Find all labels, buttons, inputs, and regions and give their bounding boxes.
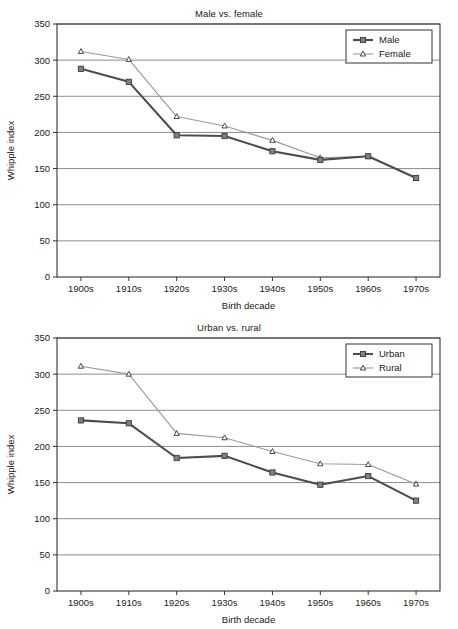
chart-plot-area: 0501001502002503003501900s1910s1920s1930… bbox=[0, 314, 458, 628]
y-tick-label: 100 bbox=[34, 513, 50, 524]
y-axis-title: Whipple index bbox=[5, 434, 16, 494]
x-tick-label: 1970s bbox=[403, 283, 429, 294]
y-tick-label: 250 bbox=[34, 91, 50, 102]
y-tick-label: 0 bbox=[45, 585, 50, 596]
y-tick-label: 350 bbox=[34, 18, 50, 29]
y-tick-label: 150 bbox=[34, 163, 50, 174]
x-tick-label: 1940s bbox=[259, 283, 285, 294]
x-tick-label: 1930s bbox=[212, 283, 238, 294]
data-point-marker bbox=[413, 498, 418, 503]
data-point-marker bbox=[413, 175, 418, 180]
legend-marker bbox=[360, 37, 365, 42]
legend-label: Urban bbox=[379, 348, 405, 359]
legend-label: Rural bbox=[379, 362, 402, 373]
data-point-marker bbox=[222, 453, 227, 458]
y-tick-label: 150 bbox=[34, 477, 50, 488]
data-point-marker bbox=[78, 49, 83, 54]
x-axis-title: Birth decade bbox=[222, 614, 275, 625]
legend-label: Female bbox=[379, 48, 411, 59]
data-point-marker bbox=[222, 133, 227, 138]
data-point-marker bbox=[318, 482, 323, 487]
y-tick-label: 50 bbox=[39, 235, 50, 246]
x-tick-label: 1930s bbox=[212, 597, 238, 608]
x-tick-label: 1960s bbox=[355, 597, 381, 608]
y-tick-label: 250 bbox=[34, 405, 50, 416]
y-tick-label: 300 bbox=[34, 369, 50, 380]
chart-male-vs-female: Male vs. female 050100150200250300350190… bbox=[0, 0, 458, 314]
chart-urban-vs-rural: Urban vs. rural 050100150200250300350190… bbox=[0, 314, 458, 628]
y-tick-label: 50 bbox=[39, 549, 50, 560]
data-point-marker bbox=[78, 418, 83, 423]
x-tick-label: 1970s bbox=[403, 597, 429, 608]
x-tick-label: 1950s bbox=[307, 597, 333, 608]
series-line-urban bbox=[81, 420, 416, 500]
data-point-marker bbox=[366, 473, 371, 478]
y-tick-label: 0 bbox=[45, 271, 50, 282]
legend-marker bbox=[360, 351, 365, 356]
y-tick-label: 200 bbox=[34, 441, 50, 452]
chart-page: Male vs. female 050100150200250300350190… bbox=[0, 0, 458, 629]
data-point-marker bbox=[270, 149, 275, 154]
chart-plot-area: 0501001502002503003501900s1910s1920s1930… bbox=[0, 0, 458, 314]
data-point-marker bbox=[174, 455, 179, 460]
x-tick-label: 1900s bbox=[68, 597, 94, 608]
x-tick-label: 1940s bbox=[259, 597, 285, 608]
x-tick-label: 1900s bbox=[68, 283, 94, 294]
y-axis-title: Whipple index bbox=[5, 120, 16, 180]
y-tick-label: 300 bbox=[34, 55, 50, 66]
x-tick-label: 1920s bbox=[164, 283, 190, 294]
x-tick-label: 1910s bbox=[116, 597, 142, 608]
y-tick-label: 100 bbox=[34, 199, 50, 210]
data-point-marker bbox=[126, 421, 131, 426]
data-point-marker bbox=[78, 363, 83, 368]
y-tick-label: 200 bbox=[34, 127, 50, 138]
x-tick-label: 1950s bbox=[307, 283, 333, 294]
data-point-marker bbox=[318, 157, 323, 162]
x-tick-label: 1960s bbox=[355, 283, 381, 294]
x-axis-title: Birth decade bbox=[222, 300, 275, 311]
y-tick-label: 350 bbox=[34, 332, 50, 343]
x-tick-label: 1910s bbox=[116, 283, 142, 294]
x-tick-label: 1920s bbox=[164, 597, 190, 608]
series-line-male bbox=[81, 69, 416, 178]
data-point-marker bbox=[174, 133, 179, 138]
legend-label: Male bbox=[379, 34, 400, 45]
data-point-marker bbox=[78, 66, 83, 71]
data-point-marker bbox=[270, 470, 275, 475]
data-point-marker bbox=[366, 154, 371, 159]
data-point-marker bbox=[126, 79, 131, 84]
